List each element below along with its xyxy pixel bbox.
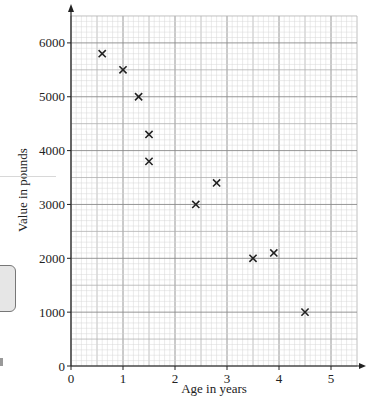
y-axis-arrow-icon: [68, 4, 74, 12]
y-tick-label: 2000: [39, 251, 65, 266]
y-tick-label: 3000: [39, 197, 65, 212]
y-axis-label: Value in pounds: [15, 148, 30, 232]
y-tick-label: 4000: [39, 143, 65, 158]
chart-stage: 012345 0100020003000400050006000 Age in …: [0, 0, 378, 417]
y-axis-ticks: 0100020003000400050006000: [39, 35, 71, 373]
y-tick-label: 0: [59, 359, 66, 374]
scatter-chart: 012345 0100020003000400050006000 Age in …: [0, 0, 378, 417]
x-axis-label: Age in years: [181, 381, 247, 396]
partial-side-panel-button[interactable]: [0, 265, 16, 312]
y-tick-label: 1000: [39, 305, 65, 320]
x-tick-label: 4: [276, 371, 283, 386]
y-tick-label: 6000: [39, 35, 65, 50]
x-tick-label: 1: [120, 371, 127, 386]
partial-side-glyph: [0, 358, 3, 366]
x-tick-label: 5: [328, 371, 335, 386]
x-tick-label: 0: [68, 371, 75, 386]
y-tick-label: 5000: [39, 89, 65, 104]
x-axis-arrow-icon: [359, 363, 366, 369]
background-divider-line: [0, 176, 56, 177]
graph-paper-grid: [71, 16, 357, 366]
x-tick-label: 2: [172, 371, 179, 386]
